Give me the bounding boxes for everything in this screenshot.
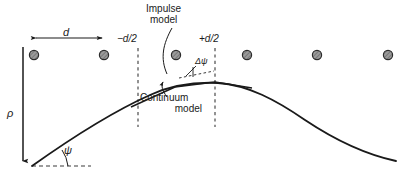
scatterer-marker xyxy=(312,50,321,59)
psi-label: ψ xyxy=(64,144,72,156)
rho-label: ρ xyxy=(7,107,13,119)
scatterer-marker xyxy=(242,50,251,59)
impulse-model-leader-line xyxy=(163,28,172,74)
scatterer-marker xyxy=(383,50,392,59)
delta-psi-label: Δψ xyxy=(195,56,208,66)
scatterer-marker xyxy=(29,50,38,59)
continuum-model-label-line1: Continuum xyxy=(140,92,188,103)
impulse-model-label-line2: model xyxy=(150,14,177,25)
tangent-dashed-at-peak xyxy=(179,71,214,78)
left-boundary-label: −d/2 xyxy=(117,33,137,44)
scatterer-row xyxy=(29,50,392,59)
scatterer-marker xyxy=(99,50,108,59)
scatterer-marker xyxy=(171,50,180,59)
impulse-model-label-line1: Impulse xyxy=(146,3,181,14)
right-boundary-label: +d/2 xyxy=(199,33,219,44)
spacing-dimension-label: d xyxy=(63,26,69,38)
physics-diagram-figure: d −d/2 +d/2 Impulse model Continuum mode… xyxy=(0,0,405,173)
continuum-ray-path xyxy=(32,83,396,166)
continuum-model-label-line2: model xyxy=(140,103,202,114)
diagram-canvas xyxy=(0,0,405,173)
